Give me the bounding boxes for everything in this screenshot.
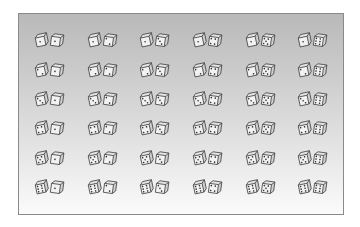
die-icon — [140, 121, 154, 135]
die-icon — [155, 121, 169, 135]
die-icon — [261, 180, 275, 194]
die-icon — [193, 63, 207, 77]
dice-pair-r1-c4 — [193, 32, 223, 48]
die-icon — [103, 180, 117, 194]
die-icon — [246, 121, 260, 135]
die-icon — [155, 180, 169, 194]
die-icon — [313, 33, 327, 47]
die-icon — [155, 63, 169, 77]
dice-pair-r6-c5 — [246, 179, 276, 195]
die-icon — [208, 180, 222, 194]
dice-pair-r4-c6 — [298, 120, 328, 136]
die-icon — [103, 121, 117, 135]
die-icon — [298, 151, 312, 165]
dice-pair-r3-c5 — [246, 91, 276, 107]
die-icon — [298, 180, 312, 194]
dice-grid — [19, 14, 343, 214]
dice-pair-r4-c5 — [246, 120, 276, 136]
die-icon — [140, 33, 154, 47]
die-icon — [155, 151, 169, 165]
die-icon — [35, 151, 49, 165]
die-icon — [261, 63, 275, 77]
dice-pair-r5-c2 — [88, 150, 118, 166]
dice-pair-r6-c3 — [140, 179, 170, 195]
die-icon — [50, 63, 64, 77]
die-icon — [140, 151, 154, 165]
dice-pair-r2-c4 — [193, 62, 223, 78]
die-icon — [313, 92, 327, 106]
dice-pair-r1-c5 — [246, 32, 276, 48]
dice-pair-r2-c6 — [298, 62, 328, 78]
die-icon — [88, 151, 102, 165]
die-icon — [88, 121, 102, 135]
die-icon — [35, 121, 49, 135]
die-icon — [208, 33, 222, 47]
dice-pair-r3-c3 — [140, 91, 170, 107]
die-icon — [155, 33, 169, 47]
die-icon — [313, 63, 327, 77]
die-icon — [246, 92, 260, 106]
dice-pair-r6-c2 — [88, 179, 118, 195]
dice-pair-r2-c3 — [140, 62, 170, 78]
die-icon — [88, 63, 102, 77]
die-icon — [88, 92, 102, 106]
die-icon — [103, 151, 117, 165]
die-icon — [103, 33, 117, 47]
dice-pair-r5-c4 — [193, 150, 223, 166]
die-icon — [103, 63, 117, 77]
dice-pair-r1-c3 — [140, 32, 170, 48]
dice-pair-r1-c6 — [298, 32, 328, 48]
die-icon — [208, 121, 222, 135]
die-icon — [193, 121, 207, 135]
die-icon — [193, 92, 207, 106]
die-icon — [50, 151, 64, 165]
die-icon — [261, 151, 275, 165]
die-icon — [50, 92, 64, 106]
die-icon — [313, 180, 327, 194]
die-icon — [103, 92, 117, 106]
die-icon — [208, 92, 222, 106]
dice-pair-r6-c1 — [35, 179, 65, 195]
die-icon — [298, 63, 312, 77]
dice-pair-r6-c4 — [193, 179, 223, 195]
dice-pair-r5-c1 — [35, 150, 65, 166]
dice-pair-r1-c2 — [88, 32, 118, 48]
dice-pair-r4-c3 — [140, 120, 170, 136]
dice-pair-r4-c2 — [88, 120, 118, 136]
dice-pair-r5-c3 — [140, 150, 170, 166]
dice-pair-r4-c4 — [193, 120, 223, 136]
die-icon — [193, 33, 207, 47]
die-icon — [35, 180, 49, 194]
die-icon — [35, 63, 49, 77]
dice-pair-r6-c6 — [298, 179, 328, 195]
die-icon — [155, 92, 169, 106]
die-icon — [140, 63, 154, 77]
die-icon — [35, 92, 49, 106]
die-icon — [313, 151, 327, 165]
dice-pair-r4-c1 — [35, 120, 65, 136]
die-icon — [246, 151, 260, 165]
die-icon — [35, 33, 49, 47]
dice-pair-r2-c5 — [246, 62, 276, 78]
die-icon — [246, 33, 260, 47]
dice-pair-r1-c1 — [35, 32, 65, 48]
die-icon — [298, 33, 312, 47]
die-icon — [193, 180, 207, 194]
dice-pair-r3-c2 — [88, 91, 118, 107]
dice-pair-r3-c1 — [35, 91, 65, 107]
dice-pair-r5-c6 — [298, 150, 328, 166]
die-icon — [246, 63, 260, 77]
die-icon — [246, 180, 260, 194]
dice-pair-r2-c2 — [88, 62, 118, 78]
die-icon — [208, 63, 222, 77]
dice-pair-r3-c4 — [193, 91, 223, 107]
die-icon — [140, 180, 154, 194]
die-icon — [298, 121, 312, 135]
die-icon — [140, 92, 154, 106]
die-icon — [193, 151, 207, 165]
die-icon — [261, 33, 275, 47]
dice-pair-r3-c6 — [298, 91, 328, 107]
die-icon — [298, 92, 312, 106]
die-icon — [88, 180, 102, 194]
die-icon — [50, 33, 64, 47]
